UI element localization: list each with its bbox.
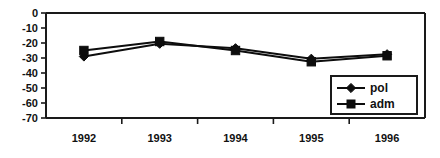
y-tick-label: -10	[22, 22, 38, 34]
y-tick-group: -70	[22, 112, 46, 124]
square-marker-icon	[347, 100, 355, 108]
y-tick-group: -20	[22, 37, 46, 49]
legend-label-adm: adm	[370, 97, 395, 111]
x-tick-label-1993: 1993	[147, 132, 171, 144]
y-tick-label: -20	[22, 37, 38, 49]
square-marker-icon	[80, 46, 88, 54]
x-tick-label-1992: 1992	[72, 132, 96, 144]
y-tick-label: -30	[22, 52, 38, 64]
chart-legend: pol adm	[331, 76, 417, 114]
y-tick-label: 0	[32, 7, 38, 19]
x-tick-label-1994: 1994	[223, 132, 248, 144]
line-chart: 0 -10 -20 -30 -40 -50	[0, 0, 440, 158]
y-tick-group: -60	[22, 97, 46, 109]
y-tick-label: -70	[22, 112, 38, 124]
y-tick-group: -40	[22, 67, 46, 79]
square-marker-icon	[156, 37, 164, 45]
legend-label-pol: pol	[370, 81, 388, 95]
y-tick-label: -50	[22, 82, 38, 94]
y-tick-label: -60	[22, 97, 38, 109]
square-marker-icon	[231, 46, 239, 54]
y-tick-group: -50	[22, 82, 46, 94]
x-axis: 1992 1993 1994 1995 1996	[72, 118, 400, 144]
y-tick-label: -40	[22, 67, 38, 79]
y-tick-group: -10	[22, 22, 46, 34]
square-marker-icon	[307, 58, 315, 66]
x-tick-label-1995: 1995	[299, 132, 323, 144]
y-tick-group: -30	[22, 52, 46, 64]
chart-canvas: 0 -10 -20 -30 -40 -50	[0, 0, 440, 158]
y-tick-group: 0	[32, 7, 46, 19]
y-axis: 0 -10 -20 -30 -40 -50	[22, 7, 46, 124]
square-marker-icon	[383, 52, 391, 60]
x-tick-label-1996: 1996	[375, 132, 399, 144]
